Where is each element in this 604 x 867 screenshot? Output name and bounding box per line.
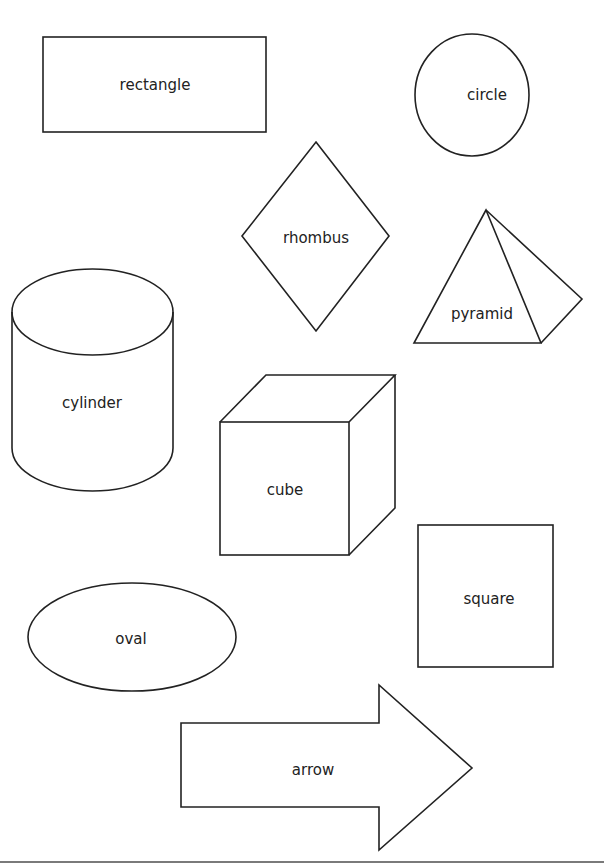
rectangle-label: rectangle — [120, 76, 191, 94]
shapes-canvas — [0, 0, 604, 867]
pyramid-shape — [414, 210, 582, 343]
arrow-label: arrow — [292, 761, 334, 779]
oval-label: oval — [115, 630, 146, 648]
cylinder-label: cylinder — [62, 394, 122, 412]
cube-label: cube — [267, 481, 304, 499]
pyramid-label: pyramid — [451, 305, 513, 323]
circle-label: circle — [467, 86, 507, 104]
square-label: square — [463, 590, 514, 608]
rhombus-label: rhombus — [283, 229, 349, 247]
bottom-divider — [0, 861, 604, 863]
cylinder-shape — [12, 269, 173, 491]
cube-shape — [220, 375, 395, 555]
